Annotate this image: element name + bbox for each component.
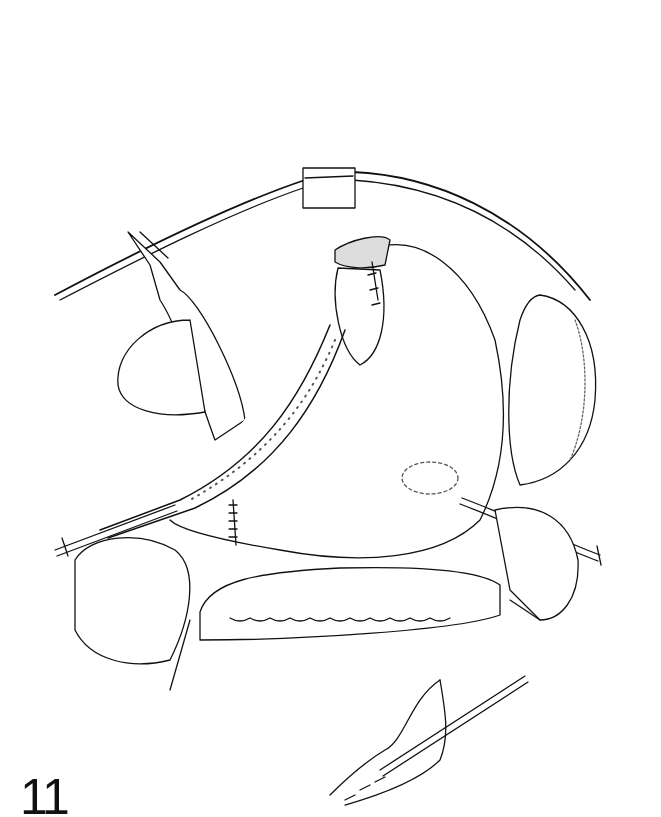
surgical-illustration — [0, 0, 661, 817]
spleen — [509, 295, 596, 485]
liver-lobe — [118, 320, 205, 415]
figure-number: 11 — [20, 772, 68, 817]
upper-retractor-band — [303, 168, 355, 208]
jejunal-limb — [330, 676, 528, 805]
